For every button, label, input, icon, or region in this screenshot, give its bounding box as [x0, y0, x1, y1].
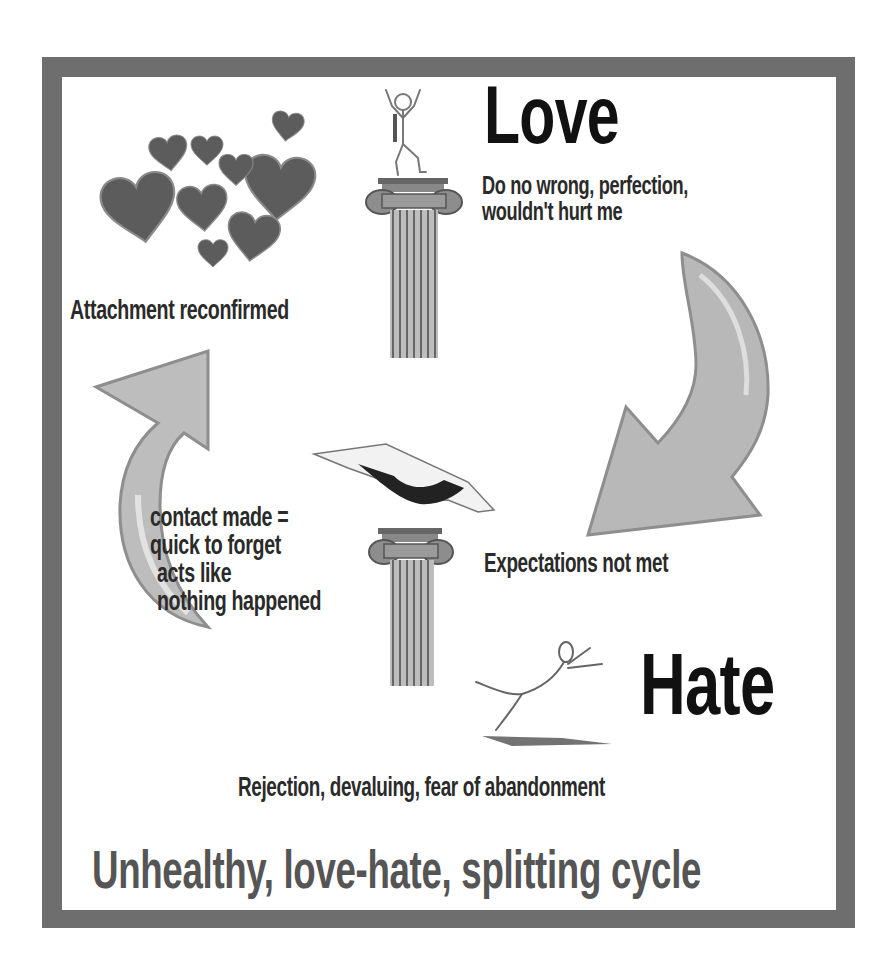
- contact-line: quick to forget: [150, 531, 321, 559]
- love-heading: Love: [484, 74, 619, 156]
- falling-stick-figure-icon: [462, 632, 642, 757]
- hate-heading: Hate: [640, 640, 774, 728]
- expectations-label: Expectations not met: [484, 550, 668, 577]
- hate-description: Rejection, devaluing, fear of abandonmen…: [238, 774, 605, 801]
- curved-arrow-down-icon: [570, 245, 810, 545]
- love-description: Do no wrong, perfection, wouldn't hurt m…: [482, 172, 688, 224]
- contact-line: contact made =: [150, 503, 321, 531]
- contact-description: contact made = quick to forget acts like…: [150, 503, 321, 615]
- love-description-line: Do no wrong, perfection,: [482, 172, 688, 198]
- contact-line: acts like: [150, 559, 321, 587]
- hearts-cluster-icon: [90, 110, 350, 280]
- love-description-line: wouldn't hurt me: [482, 198, 688, 224]
- contact-line: nothing happened: [150, 587, 321, 615]
- diagram-title: Unhealthy, love-hate, splitting cycle: [92, 842, 701, 896]
- attachment-label: Attachment reconfirmed: [70, 296, 289, 324]
- stick-figure-on-pillar-icon: [360, 80, 470, 360]
